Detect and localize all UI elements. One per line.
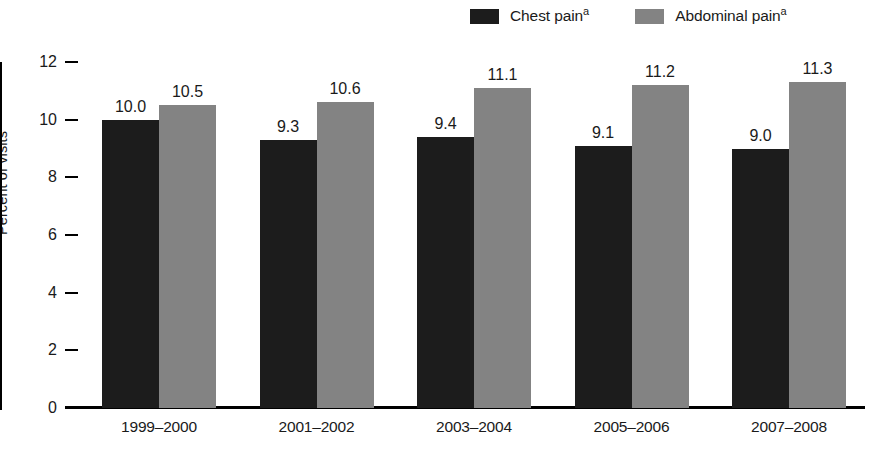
y-axis-tick-label: 6 <box>48 226 57 244</box>
legend-footnote-mark-chest-pain: a <box>583 5 589 17</box>
bar-value-label: 9.3 <box>252 118 325 136</box>
y-axis-line <box>0 62 2 410</box>
bar <box>575 146 632 408</box>
bar <box>732 149 789 409</box>
bar <box>417 137 474 408</box>
legend-label-chest-pain: Chest paina <box>510 7 589 25</box>
bar-value-label: 11.2 <box>624 63 697 81</box>
legend-text-abdominal-pain: Abdominal pain <box>675 7 780 24</box>
bar <box>474 88 531 408</box>
plot-area: 10.010.59.310.69.411.19.111.29.011.3 <box>65 62 865 408</box>
bar-value-label: 11.1 <box>466 66 539 84</box>
y-axis-tick-label: 10 <box>39 111 57 129</box>
legend-footnote-mark-abdominal-pain: a <box>781 5 787 17</box>
legend-text-chest-pain: Chest pain <box>510 7 583 24</box>
y-axis-tick-label: 8 <box>48 168 57 186</box>
bar <box>632 85 689 408</box>
x-axis-category-label: 2003–2004 <box>397 418 551 436</box>
x-axis-category-label: 1999–2000 <box>82 418 236 436</box>
x-axis-category-label: 2001–2002 <box>240 418 394 436</box>
bar <box>317 102 374 408</box>
bar-value-label: 9.4 <box>409 115 482 133</box>
bar <box>260 140 317 408</box>
y-axis-tick-label: 2 <box>48 341 57 359</box>
bar <box>159 105 216 408</box>
y-axis-tick-label: 12 <box>39 53 57 71</box>
bar-value-label: 10.5 <box>151 83 224 101</box>
y-axis-tick-label: 4 <box>48 284 57 302</box>
chart-legend: Chest paina Abdominal paina <box>470 6 787 26</box>
legend-item-abdominal-pain: Abdominal paina <box>635 7 786 25</box>
x-axis-category-label: 2005–2006 <box>555 418 709 436</box>
bar-value-label: 10.6 <box>309 80 382 98</box>
legend-swatch-abdominal-pain <box>635 9 664 24</box>
bar-value-label: 11.3 <box>781 60 854 78</box>
bar <box>102 120 159 408</box>
legend-swatch-chest-pain <box>470 9 499 24</box>
legend-item-chest-pain: Chest paina <box>470 7 589 25</box>
bar-chart: Chest paina Abdominal paina Percent of v… <box>0 0 884 451</box>
bar-value-label: 9.1 <box>567 124 640 142</box>
y-axis-tick-label: 0 <box>48 399 57 417</box>
x-axis-category-label: 2007–2008 <box>712 418 866 436</box>
bar <box>789 82 846 408</box>
bar-value-label: 9.0 <box>724 127 797 145</box>
legend-label-abdominal-pain: Abdominal paina <box>675 7 786 25</box>
